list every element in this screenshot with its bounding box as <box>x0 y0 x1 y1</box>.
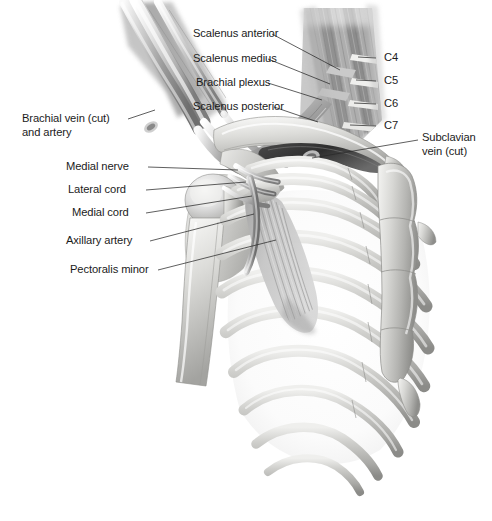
label-medial-nerve: Medial nerve <box>66 160 129 174</box>
label-scalenus-medius: Scalenus medius <box>193 52 277 66</box>
label-brachial-vein-line1: Brachial vein (cut) <box>22 112 110 126</box>
label-axillary-artery: Axillary artery <box>66 234 132 248</box>
label-nerve-root-c5: C5 <box>384 74 398 86</box>
label-medial-cord: Medial cord <box>72 206 129 220</box>
label-brachial-vein-line2: and artery <box>22 126 71 140</box>
label-subclavian-vein-line1: Subclavian <box>422 131 476 145</box>
brachial-vein-cut-end <box>142 119 160 135</box>
label-scalenus-anterior: Scalenus anterior <box>193 27 278 41</box>
label-lateral-cord: Lateral cord <box>68 183 126 197</box>
label-nerve-root-c6: C6 <box>384 97 398 109</box>
label-nerve-root-c4: C4 <box>384 51 398 63</box>
label-pectoralis-minor: Pectoralis minor <box>70 263 149 277</box>
label-nerve-root-c7: C7 <box>384 119 398 131</box>
anatomy-figure: Scalenus anterior Scalenus medius Brachi… <box>0 0 492 521</box>
label-scalenus-posterior: Scalenus posterior <box>193 100 284 114</box>
label-brachial-plexus: Brachial plexus <box>196 76 270 90</box>
label-subclavian-vein-line2: vein (cut) <box>422 145 467 159</box>
